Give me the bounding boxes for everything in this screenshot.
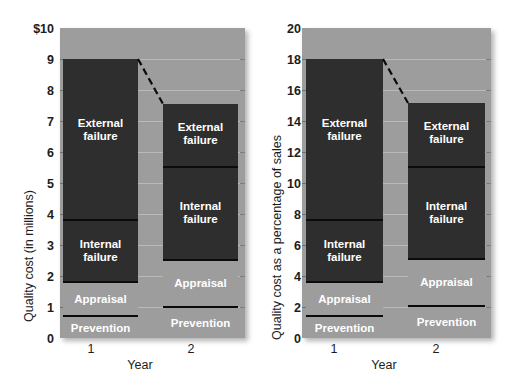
chart-panel-quality-cost-millions: Quality cost (in millions) $10 9 8 7 6 5…	[0, 0, 262, 382]
left-chart-y-tick-9: 9	[6, 54, 54, 67]
left-chart-y-tick-6: 6	[6, 147, 54, 160]
left-chart-bar2-segment-prevention[interactable]: Prevention	[163, 306, 238, 338]
right-chart-y-tick-20: 20	[273, 23, 301, 36]
right-chart-y-tick-10: 10	[273, 178, 301, 191]
right-chart-y-tick-12: 12	[273, 147, 301, 160]
right-chart-bar2-external-failure-label: External failure	[408, 120, 485, 146]
left-chart-bar1-segment-external-failure[interactable]: External failure	[63, 59, 138, 219]
left-chart-bar1-segment-internal-failure[interactable]: Internal failure	[63, 219, 138, 281]
right-chart-bar2-internal-failure-label: Internal failure	[408, 200, 485, 226]
left-chart-bar2-appraisal-label: Appraisal	[163, 277, 238, 290]
right-chart-tick-right-2	[486, 307, 491, 308]
left-chart-tick-right-3	[240, 245, 245, 246]
left-chart-bar2-segment-external-failure[interactable]: External failure	[163, 104, 238, 166]
left-chart-y-tick-8: 8	[6, 85, 54, 98]
left-chart-x-axis-title: Year	[110, 358, 170, 372]
left-chart-bar1-appraisal-label: Appraisal	[63, 293, 138, 306]
chart-panel-quality-cost-percentage: Quality cost as a percentage of sales 20…	[261, 0, 523, 382]
right-chart-bar2-segment-appraisal[interactable]: Appraisal	[408, 258, 485, 305]
left-chart-bar2-segment-internal-failure[interactable]: Internal failure	[163, 166, 238, 259]
right-chart-bar-year-1[interactable]: External failure Internal failure Apprai…	[306, 59, 383, 338]
right-chart-tick-right-8	[486, 214, 491, 215]
right-chart-tick-right-4	[486, 276, 491, 277]
right-chart-bar1-appraisal-label: Appraisal	[306, 293, 383, 306]
right-chart-tick-right-14	[486, 121, 491, 122]
left-chart-bar2-external-failure-label: External failure	[163, 121, 238, 147]
right-chart-bar1-segment-internal-failure[interactable]: Internal failure	[306, 219, 383, 281]
right-chart-tick-right-16	[486, 90, 491, 91]
left-chart-y-tick-0: 0	[6, 333, 54, 346]
right-chart-plot-area: External failure Internal failure Apprai…	[302, 28, 491, 338]
right-chart-y-tick-14: 14	[273, 116, 301, 129]
right-chart-tick-right-6	[486, 245, 491, 246]
left-chart-bar2-internal-failure-label: Internal failure	[163, 200, 238, 226]
left-chart-bar-year-1[interactable]: External failure Internal failure Apprai…	[63, 59, 138, 338]
left-chart-bar2-segment-appraisal[interactable]: Appraisal	[163, 259, 238, 306]
right-chart-y-tick-16: 16	[273, 85, 301, 98]
left-chart-tick-right-5	[240, 183, 245, 184]
left-chart-bar1-prevention-label: Prevention	[63, 322, 138, 335]
left-chart-tick-right-8	[240, 90, 245, 91]
right-chart-y-tick-6: 6	[273, 240, 301, 253]
right-chart-bar2-segment-internal-failure[interactable]: Internal failure	[408, 166, 485, 258]
left-chart-y-tick-3: 3	[6, 240, 54, 253]
left-chart-y-tick-1: 1	[6, 302, 54, 315]
right-chart-y-tick-4: 4	[273, 271, 301, 284]
right-chart-x-tick-1: 1	[323, 342, 345, 356]
left-chart-y-tick-5: 5	[6, 178, 54, 191]
right-chart-bar2-segment-external-failure[interactable]: External failure	[408, 103, 485, 166]
right-chart-bar2-appraisal-label: Appraisal	[408, 276, 485, 289]
left-chart-bar1-external-failure-label: External failure	[63, 117, 138, 143]
right-chart-bar2-prevention-label: Prevention	[408, 316, 485, 329]
right-chart-bar1-external-failure-label: External failure	[306, 117, 383, 143]
right-chart-bar-year-2[interactable]: External failure Internal failure Apprai…	[408, 103, 485, 338]
left-chart-tick-right-2	[240, 276, 245, 277]
right-chart-x-axis-title: Year	[354, 358, 414, 372]
right-chart-bar1-segment-appraisal[interactable]: Appraisal	[306, 281, 383, 315]
left-chart-bar-year-2[interactable]: External failure Internal failure Apprai…	[163, 104, 238, 338]
right-chart-y-tick-8: 8	[273, 209, 301, 222]
left-chart-y-tick-7: 7	[6, 116, 54, 129]
right-chart-tick-right-10	[486, 183, 491, 184]
right-chart-tick-right-12	[486, 152, 491, 153]
left-chart-y-tick-10: $10	[6, 23, 54, 36]
right-chart-y-tick-2: 2	[273, 302, 301, 315]
right-chart-y-tick-18: 18	[273, 54, 301, 67]
left-chart-y-tick-2: 2	[6, 271, 54, 284]
left-chart-bar2-prevention-label: Prevention	[163, 317, 238, 330]
right-chart-bar1-segment-prevention[interactable]: Prevention	[306, 315, 383, 338]
right-chart-tick-right-18	[486, 59, 491, 60]
left-chart-x-tick-1: 1	[80, 342, 102, 356]
left-chart-tick-right-9	[240, 59, 245, 60]
left-chart-plot-area: External failure Internal failure Apprai…	[60, 28, 245, 338]
right-chart-bar1-internal-failure-label: Internal failure	[306, 238, 383, 264]
left-chart-tick-right-6	[240, 152, 245, 153]
left-chart-bar1-segment-prevention[interactable]: Prevention	[63, 315, 138, 338]
right-chart-x-tick-2: 2	[425, 342, 447, 356]
right-chart-bar2-segment-prevention[interactable]: Prevention	[408, 305, 485, 338]
quality-cost-figure: Quality cost (in millions) $10 9 8 7 6 5…	[0, 0, 523, 382]
left-chart-tick-right-1	[240, 307, 245, 308]
left-chart-tick-right-4	[240, 214, 245, 215]
right-chart-y-tick-0: 0	[273, 333, 301, 346]
left-chart-x-tick-2: 2	[180, 342, 202, 356]
left-chart-bar1-segment-appraisal[interactable]: Appraisal	[63, 281, 138, 315]
right-chart-bar1-prevention-label: Prevention	[306, 322, 383, 335]
right-chart-bar1-segment-external-failure[interactable]: External failure	[306, 59, 383, 219]
left-chart-bar1-internal-failure-label: Internal failure	[63, 238, 138, 264]
left-chart-tick-right-7	[240, 121, 245, 122]
left-chart-y-tick-4: 4	[6, 209, 54, 222]
